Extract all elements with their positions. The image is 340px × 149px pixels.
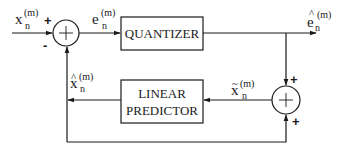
input-signal-label: x (m) n [15,7,38,31]
plus-sign-bottom: + [292,114,300,129]
error-signal-label: e (m) n [92,7,115,31]
linear-predictor-block: LINEAR PREDICTOR [121,80,203,123]
prediction-signal-label: ^ x (m) n [70,71,93,94]
svg-text:(m): (m) [101,7,115,19]
predictor-label-line2: PREDICTOR [126,103,198,118]
plus-sign: + [44,13,52,28]
svg-text:x: x [231,82,239,98]
quantized-error-signal-label: ^ e (m) n [307,7,331,33]
svg-text:e: e [307,14,314,30]
svg-text:x: x [70,75,78,91]
plus-sign-top: + [290,72,298,87]
svg-text:n: n [80,83,85,94]
quantizer-block: QUANTIZER [121,17,203,50]
svg-text:(m): (m) [240,78,254,90]
predictor-label-line1: LINEAR [138,86,186,101]
svg-text:(m): (m) [79,71,93,83]
reconstruction-signal-label: ~ x (m) n [231,77,254,101]
svg-text:n: n [242,90,247,101]
reconstruction-summing-junction [272,86,300,114]
svg-text:(m): (m) [317,9,331,21]
input-summing-junction [53,20,79,46]
svg-text:x: x [15,11,23,27]
quantizer-label: QUANTIZER [125,26,200,41]
svg-text:n: n [25,20,30,31]
dpcm-block-diagram: + - QUANTIZER + + LINEAR PREDICTOR x (m)… [0,0,340,149]
minus-sign: - [43,38,47,53]
svg-text:n: n [315,22,320,33]
svg-text:n: n [102,20,107,31]
svg-text:e: e [92,11,99,27]
svg-text:(m): (m) [24,7,38,19]
